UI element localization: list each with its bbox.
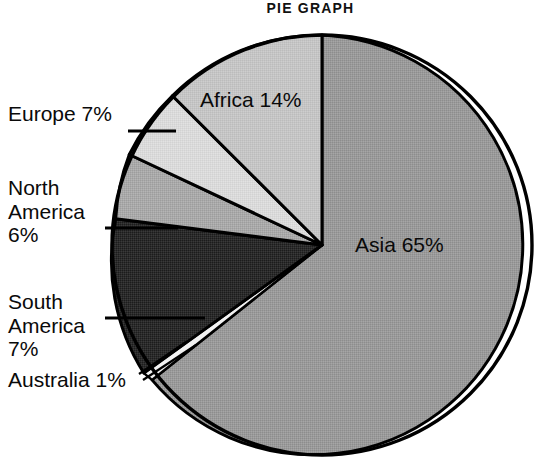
slice-label-australia-text: Australia 1% xyxy=(8,368,126,391)
slice-label-south-america: South America 7% xyxy=(8,290,85,361)
slice-label-asia-text: Asia 65% xyxy=(355,233,444,256)
slice-label-europe-text: Europe 7% xyxy=(8,102,112,125)
chart-title: PIE GRAPH xyxy=(41,0,539,16)
slice-label-africa: Africa 14% xyxy=(200,88,302,112)
slice-label-australia: Australia 1% xyxy=(8,368,126,392)
slice-label-south-america-line2: America xyxy=(8,314,85,338)
slice-label-north-america-line3: 6% xyxy=(8,223,85,247)
slice-label-south-america-line3: 7% xyxy=(8,337,85,361)
slice-label-north-america: North America 6% xyxy=(8,176,85,247)
slice-label-north-america-line2: America xyxy=(8,200,85,224)
slice-label-asia: Asia 65% xyxy=(355,233,444,257)
slice-label-south-america-line1: South xyxy=(8,290,85,314)
slice-label-europe: Europe 7% xyxy=(8,102,112,126)
pie-chart-figure: PIE GRAPH xyxy=(0,0,539,476)
slice-label-africa-text: Africa 14% xyxy=(200,88,302,111)
slice-label-north-america-line1: North xyxy=(8,176,85,200)
